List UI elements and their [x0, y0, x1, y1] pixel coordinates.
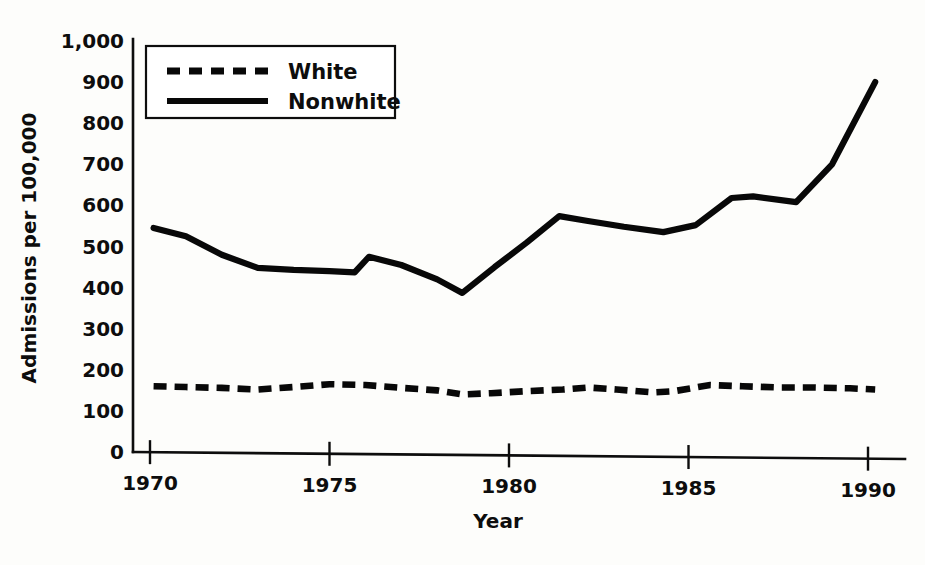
- x-tick-label: 1985: [661, 476, 717, 500]
- x-tick-label: 1970: [122, 471, 178, 495]
- x-tick-label: 1975: [302, 473, 358, 497]
- chart-container: 01002003004005006007008009001,000 197019…: [0, 0, 925, 565]
- x-tick-label: 1980: [481, 474, 537, 498]
- x-tick-label: 1990: [840, 478, 896, 502]
- x-axis-spine: [133, 452, 905, 459]
- y-tick-label: 200: [82, 358, 124, 382]
- y-tick-label: 400: [82, 276, 124, 300]
- line-chart: 01002003004005006007008009001,000 197019…: [0, 0, 925, 565]
- x-axis: 19701975198019851990: [122, 440, 905, 502]
- legend-label-white: White: [288, 60, 358, 84]
- series-line-white: [154, 384, 876, 394]
- x-tick-group: 19701975198019851990: [122, 440, 896, 502]
- legend: White Nonwhite: [146, 46, 401, 118]
- y-tick-label: 100: [82, 399, 124, 423]
- y-tick-label: 800: [82, 111, 124, 135]
- y-tick-label: 900: [82, 70, 124, 94]
- y-tick-label: 600: [82, 193, 124, 217]
- legend-label-nonwhite: Nonwhite: [288, 90, 401, 114]
- y-tick-label: 500: [82, 235, 124, 259]
- y-tick-label: 300: [82, 317, 124, 341]
- y-tick-label: 1,000: [61, 29, 124, 53]
- x-axis-title: Year: [472, 509, 523, 533]
- plot-series-group: [154, 82, 876, 394]
- y-tick-label-group: 01002003004005006007008009001,000: [61, 29, 124, 464]
- y-tick-label: 0: [110, 440, 124, 464]
- y-axis-title: Admissions per 100,000: [17, 113, 41, 384]
- y-tick-label: 700: [82, 152, 124, 176]
- y-axis: 01002003004005006007008009001,000: [61, 29, 133, 464]
